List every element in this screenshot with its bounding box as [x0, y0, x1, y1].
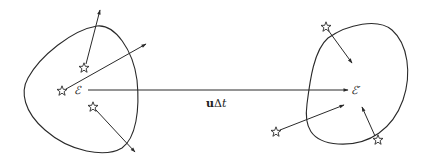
right-star-1-icon — [321, 22, 331, 32]
diagram: ℰ ℰ′ uΔt — [0, 0, 432, 164]
displacement-label-t: t — [222, 97, 227, 110]
right-region-label: ℰ′ — [351, 84, 361, 97]
left-region-boundary — [24, 26, 138, 153]
left-star-2-icon — [57, 86, 67, 96]
left-star-1-arrow — [86, 10, 100, 64]
diagram-canvas: ℰ ℰ′ uΔt — [0, 0, 432, 164]
left-region-label: ℰ — [74, 84, 82, 97]
right-star-1-arrow — [328, 30, 352, 63]
right-star-3-arrow — [362, 107, 375, 136]
displacement-label-u: u — [206, 97, 214, 110]
left-star-3-arrow — [96, 110, 135, 152]
displacement-label-delta: Δ — [214, 97, 222, 110]
right-star-2-arrow — [280, 105, 344, 130]
displacement-label: uΔt — [206, 97, 227, 110]
left-star-1-icon — [79, 63, 89, 73]
right-star-2-icon — [271, 127, 281, 137]
